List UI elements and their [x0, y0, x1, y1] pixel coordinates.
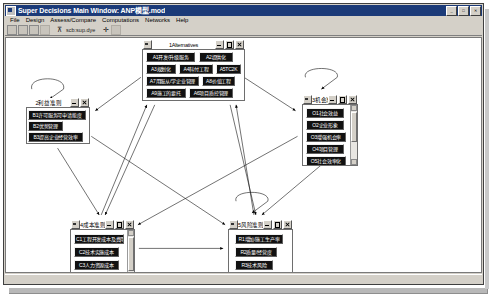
open-icon[interactable] [18, 25, 28, 35]
node-a4[interactable]: A4科付工程 [179, 64, 213, 74]
close-button[interactable]: ✕ [470, 6, 481, 16]
menu-help[interactable]: Help [173, 16, 191, 25]
tool-bar: ⊼ scb:sup.dye ✛ [5, 25, 482, 36]
node-a8[interactable]: A8价值工程 [202, 76, 235, 86]
node-a2[interactable]: A2提供化 [199, 52, 233, 62]
cluster-vscrollbar-opportunities[interactable] [350, 105, 357, 165]
cluster-minimize-icon[interactable] [263, 220, 272, 229]
node-b1[interactable]: B1许可服务可申请能度 [28, 110, 86, 120]
maximize-icon: □ [460, 7, 467, 13]
cluster-vscrollbar-costs[interactable] [127, 230, 134, 272]
maximize-button[interactable]: □ [458, 6, 469, 16]
cluster-maximize-icon[interactable] [225, 40, 234, 49]
menu-networks[interactable]: Networks [142, 16, 173, 25]
cluster-close-icon[interactable] [283, 220, 292, 229]
node-a1[interactable]: A1开发/升级服务 [146, 52, 195, 62]
node-c3[interactable]: C3人力资源成本 [74, 260, 119, 270]
system-menu-icon[interactable] [303, 95, 312, 104]
new-icon[interactable] [7, 25, 17, 35]
scroll-up-arrow[interactable] [128, 230, 134, 236]
node-o1[interactable]: O1社会效益 [306, 108, 344, 118]
menu-bar: File Design Assess/Compare Computations … [5, 16, 482, 25]
menu-file[interactable]: File [7, 16, 23, 25]
scroll-thumb[interactable] [128, 237, 134, 271]
node-r3[interactable]: R3技术风险 [235, 260, 273, 270]
app-icon [6, 6, 16, 16]
node-b3[interactable]: B3提高企业经营效率 [28, 132, 83, 142]
save-icon[interactable] [29, 25, 39, 35]
minimize-button[interactable]: _ [446, 6, 457, 16]
node-c1[interactable]: C1工程开发成本及费用 [74, 234, 124, 244]
node-o3[interactable]: O3增强机会率 [306, 132, 346, 142]
cluster-minimize-icon[interactable] [105, 220, 114, 229]
cluster-title-bar-benefits[interactable]: 2利益准则 [26, 98, 90, 107]
node-r2[interactable]: R2质量/经营度 [235, 247, 277, 257]
node-o4[interactable]: O4项目管理 [306, 144, 344, 154]
cluster-title-bar-costs[interactable]: 4成本准则 [70, 220, 135, 229]
status-bar [5, 274, 482, 283]
cluster-minimize-icon[interactable] [215, 40, 224, 49]
cluster-maximize-icon[interactable] [273, 220, 282, 229]
title-bar: Super Decisions Main Window: ANP模型.mod _… [5, 5, 482, 16]
cluster-close-icon[interactable] [235, 40, 244, 49]
node-b2[interactable]: B2优势管理 [28, 121, 63, 131]
cluster-minimize-icon[interactable] [70, 98, 79, 107]
node-o5[interactable]: O5社会效率化 [306, 156, 346, 166]
plus-icon[interactable]: ✛ [103, 26, 109, 34]
cluster-alternatives[interactable]: 1Alternatives A1开发/升级服务 A2提供化 A3规划化 A4科付… [142, 40, 245, 101]
cluster-name-risks: 5风险准则 [238, 221, 263, 229]
scroll-up-arrow[interactable] [351, 105, 357, 111]
cluster-title-bar-opportunities[interactable]: 3机会准则 [302, 95, 358, 104]
cluster-close-icon[interactable] [125, 220, 134, 229]
minimize-icon: _ [448, 7, 455, 13]
menu-design[interactable]: Design [23, 16, 48, 25]
node-o2[interactable]: O2企业形象 [306, 120, 344, 130]
hierarchy-icon[interactable]: ⊼ [57, 26, 62, 34]
cluster-body-opportunities[interactable]: O1社会效益 O2企业形象 O3增强机会率 O4项目管理 O5社会效率化 [302, 104, 358, 166]
cluster-maximize-icon[interactable] [338, 95, 347, 104]
cluster-body-costs[interactable]: C1工程开发成本及费用 C2技术实施成本 C3人力资源成本 C4维护/管理成本 [70, 229, 135, 272]
system-menu-icon[interactable] [143, 40, 152, 49]
node-a9[interactable]: A9施工的要托 [146, 88, 186, 98]
box-icon[interactable] [111, 25, 121, 35]
cluster-name-costs: 4成本准则 [80, 221, 105, 229]
network-canvas-area[interactable]: 1Alternatives A1开发/升级服务 A2提供化 A3规划化 A4科付… [5, 37, 482, 273]
window-title: Super Decisions Main Window: ANP模型.mod [18, 6, 165, 15]
cluster-close-icon[interactable] [80, 98, 89, 107]
cluster-risks[interactable]: 5风险准则 R1增加/施工生产率 R2质量/经营度 R3技术风险 R4项目整体管… [228, 220, 293, 272]
edit-icon[interactable] [40, 25, 50, 35]
cluster-title-bar-alternatives[interactable]: 1Alternatives [142, 40, 245, 49]
cluster-body-risks[interactable]: R1增加/施工生产率 R2质量/经营度 R3技术风险 R4项目整体管理能力 [228, 229, 293, 272]
cluster-body-alternatives[interactable]: A1开发/升级服务 A2提供化 A3规划化 A4科付工程 A5TC2K A7用服… [142, 49, 245, 101]
scroll-down-arrow[interactable] [351, 159, 357, 165]
network-canvas[interactable]: 1Alternatives A1开发/升级服务 A2提供化 A3规划化 A4科付… [6, 38, 481, 272]
node-a5[interactable]: A5TC2K [216, 64, 241, 74]
cluster-window-controls-opportunities [328, 95, 357, 104]
node-a7[interactable]: A7用服从/学企业管理 [146, 76, 199, 86]
cluster-costs[interactable]: 4成本准则 C1工程开发成本及费用 C2技术实施成本 C3人力资源成本 C4维护… [70, 220, 135, 272]
system-menu-icon[interactable] [71, 220, 80, 229]
cluster-window-controls [215, 40, 244, 49]
node-a3[interactable]: A3规划化 [146, 64, 176, 74]
cluster-name-benefits: 2利益准则 [27, 99, 70, 107]
cluster-opportunities[interactable]: 3机会准则 O1社会效益 O2企业形象 O3增强机会率 O4项目管理 O5社会效… [302, 95, 358, 166]
menu-computations[interactable]: Computations [99, 16, 142, 25]
node-r1[interactable]: R1增加/施工生产率 [235, 234, 283, 244]
cluster-body-benefits[interactable]: B1许可服务可申请能度 B2优势管理 B3提高企业经营效率 [26, 107, 90, 144]
cluster-window-controls-risks [263, 220, 292, 229]
cluster-minimize-icon[interactable] [328, 95, 337, 104]
cluster-name-alternatives: 1Alternatives [152, 41, 215, 49]
menu-assess-compare[interactable]: Assess/Compare [47, 16, 99, 25]
window-shadow-right [485, 9, 489, 289]
cluster-close-icon[interactable] [348, 95, 357, 104]
system-menu-icon[interactable] [229, 220, 238, 229]
toolbar-file-label: scb:sup.dye [66, 26, 95, 35]
scroll-thumb[interactable] [351, 112, 357, 142]
cluster-benefits[interactable]: 2利益准则 B1许可服务可申请能度 B2优势管理 B3提高企业经营效率 [26, 98, 90, 144]
node-a6[interactable]: A6项目质控管理 [189, 88, 233, 98]
window-shadow-bottom [9, 288, 488, 294]
cluster-title-bar-risks[interactable]: 5风险准则 [228, 220, 293, 229]
node-c2[interactable]: C2技术实施成本 [74, 247, 119, 257]
cluster-maximize-icon[interactable] [115, 220, 124, 229]
app-root: Super Decisions Main Window: ANP模型.mod _… [0, 0, 490, 305]
